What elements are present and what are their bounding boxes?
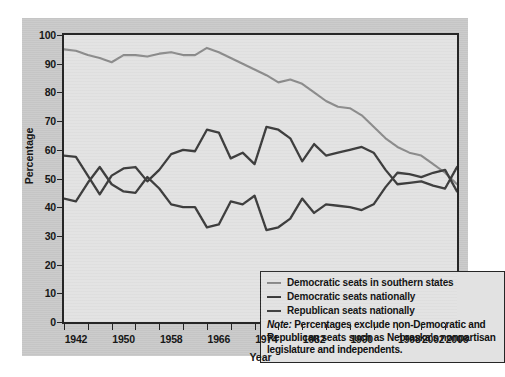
x-tick-mark <box>350 324 351 330</box>
x-tick-label: 1982 <box>303 333 326 345</box>
legend-item-republican: Republican seats nationally <box>267 304 498 317</box>
x-tick-mark <box>445 324 446 330</box>
x-tick-mark <box>397 324 398 330</box>
legend-label-republican: Republican seats nationally <box>287 305 415 316</box>
y-tick-label: 80 <box>26 86 56 98</box>
legend-swatch-democratic <box>267 296 281 298</box>
x-tick-label: 1990 <box>350 333 373 345</box>
x-tick-mark <box>135 324 136 330</box>
x-axis-labels: 1942195019581966197419821990199820022006 <box>62 333 459 349</box>
x-tick-mark <box>112 324 113 330</box>
x-tick-label: 1950 <box>112 333 135 345</box>
legend-label-southern: Democratic seats in southern states <box>287 277 453 288</box>
x-tick-mark <box>231 324 232 330</box>
legend-label-democratic: Democratic seats nationally <box>287 291 415 302</box>
x-tick-mark <box>159 324 160 330</box>
legend-item-southern: Democratic seats in southern states <box>267 276 498 289</box>
x-tick-label: 1974 <box>255 333 278 345</box>
series-line <box>64 48 457 184</box>
y-tick-label: 90 <box>26 58 56 70</box>
series-line <box>64 127 457 194</box>
y-tick-label: 100 <box>26 29 56 41</box>
y-tick-label: 70 <box>26 115 56 127</box>
y-tick-label: 20 <box>26 259 56 271</box>
plot-area: Democratic seats in southern states Demo… <box>62 33 459 324</box>
x-tick-label: 2006 <box>446 333 469 345</box>
x-tick-mark <box>88 324 89 330</box>
legend-swatch-republican <box>267 310 281 312</box>
series-line <box>64 167 457 230</box>
x-tick-mark <box>374 324 375 330</box>
x-tick-mark <box>326 324 327 330</box>
y-axis-labels: 0102030405060708090100 <box>24 33 56 324</box>
x-tick-label: 1998 <box>398 333 421 345</box>
x-tick-mark <box>183 324 184 330</box>
x-tick-mark <box>302 324 303 330</box>
y-tick-label: 30 <box>26 230 56 242</box>
y-tick-label: 10 <box>26 287 56 299</box>
legend-item-democratic: Democratic seats nationally <box>267 290 498 303</box>
x-tick-mark <box>421 324 422 330</box>
legend-swatch-southern <box>267 282 281 284</box>
y-tick-label: 40 <box>26 201 56 213</box>
x-tick-mark <box>64 324 65 330</box>
x-tick-mark <box>278 324 279 330</box>
y-tick-label: 50 <box>26 173 56 185</box>
x-tick-label: 1942 <box>65 333 88 345</box>
x-tick-label: 1966 <box>208 333 231 345</box>
y-tick-label: 60 <box>26 144 56 156</box>
x-tick-label: 1958 <box>160 333 183 345</box>
x-tick-label: 2002 <box>422 333 445 345</box>
x-tick-mark <box>207 324 208 330</box>
x-axis-ticks <box>62 324 459 331</box>
y-tick-label: 0 <box>26 316 56 328</box>
x-tick-mark <box>255 324 256 330</box>
x-axis-title: Year <box>62 351 459 363</box>
